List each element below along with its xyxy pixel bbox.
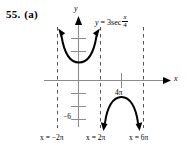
lower-branch-arrow-right [136, 122, 143, 131]
y-axis-arrowhead [75, 16, 82, 25]
equation-equals: = [101, 18, 106, 27]
equation-fraction: x4 [122, 14, 128, 30]
figure-page: 55.(a) [0, 0, 186, 151]
upper-branch-arrow-left [58, 29, 65, 37]
upper-branch-arrow-right [93, 29, 100, 37]
equation-rhs-func: 3sec [107, 18, 121, 27]
y-axis-label: y [74, 4, 78, 13]
lower-branch-arrow-left [101, 122, 108, 131]
equation-label: y = 3secx4 [95, 14, 128, 30]
graph-svg [0, 0, 186, 151]
fraction-denominator: 4 [122, 22, 128, 29]
asymptote-label-right: x = 6π [129, 133, 148, 142]
asymptote-label-middle: x = 2π [86, 133, 105, 142]
graph-figure: y = 3secx4 y x 4π −6 x = −2π x = 2π x = … [0, 0, 186, 151]
x-axis-arrowhead [163, 77, 171, 84]
asymptote-label-left: x = −2π [40, 133, 64, 142]
y-tick-label-minus6: −6 [63, 112, 71, 121]
equation-lhs: y [95, 18, 99, 27]
x-axis-label: x [174, 74, 178, 83]
lower-branch-curve [105, 97, 138, 123]
x-tick-label-4pi: 4π [115, 88, 123, 97]
